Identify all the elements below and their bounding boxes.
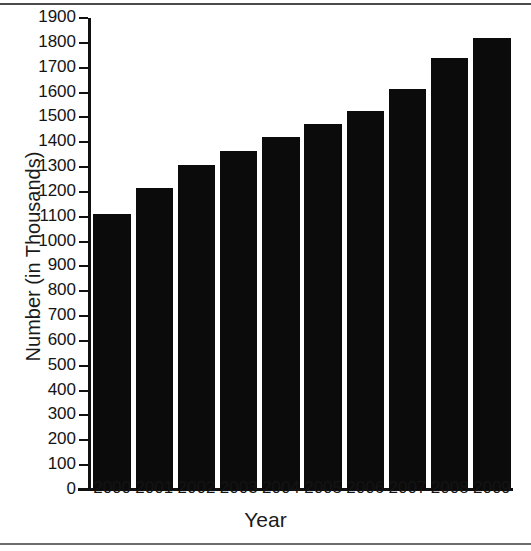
bar <box>389 89 426 490</box>
bar-slot <box>471 18 513 490</box>
y-tick-mark: 1500 <box>79 116 88 118</box>
y-tick-label: 600 <box>48 330 76 350</box>
x-tick-label: 2005 <box>302 478 344 498</box>
x-tick-label: 2008 <box>429 478 471 498</box>
bar <box>93 214 130 490</box>
y-tick-label: 700 <box>48 305 76 325</box>
y-tick-mark: 300 <box>79 414 88 416</box>
bar <box>473 38 510 490</box>
y-tick-label: 100 <box>48 454 76 474</box>
y-tick-label: 1600 <box>38 82 76 102</box>
y-tick-label: 1400 <box>38 131 76 151</box>
y-tick-label: 1000 <box>38 231 76 251</box>
y-tick-mark: 200 <box>79 439 88 441</box>
bar-slot <box>386 18 428 490</box>
y-tick-mark: 1400 <box>79 141 88 143</box>
y-tick-label: 1800 <box>38 32 76 52</box>
bar-slot <box>218 18 260 490</box>
y-tick-mark: 900 <box>79 265 88 267</box>
y-tick-label: 200 <box>48 429 76 449</box>
x-tick-label: 2000 <box>91 478 133 498</box>
y-tick-label: 900 <box>48 255 76 275</box>
y-tick-label: 1900 <box>38 7 76 27</box>
bar-slot <box>302 18 344 490</box>
y-tick-label: 500 <box>48 355 76 375</box>
bar <box>262 137 299 490</box>
plot-area: 0100200300400500600700800900100011001200… <box>88 18 513 490</box>
y-tick-mark: 700 <box>79 315 88 317</box>
x-tick-label: 2009 <box>471 478 513 498</box>
bar <box>220 151 257 490</box>
x-tick-label: 2001 <box>133 478 175 498</box>
y-tick-label: 400 <box>48 380 76 400</box>
bar-chart-figure: Number (in Thousands) 010020030040050060… <box>0 0 531 551</box>
y-tick-mark: 1700 <box>79 67 88 69</box>
y-tick-label: 1500 <box>38 106 76 126</box>
bar <box>178 165 215 490</box>
x-tick-label: 2006 <box>344 478 386 498</box>
bar-slot <box>175 18 217 490</box>
y-tick-mark: 500 <box>79 365 88 367</box>
bar <box>431 58 468 490</box>
x-tick-label: 2002 <box>175 478 217 498</box>
x-tick-label: 2004 <box>260 478 302 498</box>
y-tick-mark: 1900 <box>79 17 88 19</box>
bar-slot <box>429 18 471 490</box>
y-tick-mark: 1600 <box>79 92 88 94</box>
y-tick-label: 1100 <box>39 206 76 226</box>
y-tick-mark: 800 <box>79 290 88 292</box>
y-axis-title: Number (in Thousands) <box>22 107 45 407</box>
bar <box>136 188 173 490</box>
y-tick-label: 1200 <box>38 181 76 201</box>
y-tick-label: 0 <box>67 479 76 499</box>
y-tick-mark: 100 <box>79 464 88 466</box>
scan-artifact-line-top <box>0 3 531 5</box>
bar-slot <box>133 18 175 490</box>
y-tick-label: 800 <box>48 280 76 300</box>
x-axis-title: Year <box>0 508 531 532</box>
y-tick-label: 1700 <box>38 57 76 77</box>
bar-slot <box>344 18 386 490</box>
bar-slot <box>260 18 302 490</box>
y-tick-mark: 1800 <box>79 42 88 44</box>
y-tick-mark: 400 <box>79 390 88 392</box>
y-tick-mark: 600 <box>79 340 88 342</box>
y-tick-label: 1300 <box>38 156 76 176</box>
y-tick-mark: 1300 <box>79 166 88 168</box>
y-tick-mark: 0 <box>79 489 88 491</box>
bar <box>304 124 341 490</box>
bar <box>347 111 384 490</box>
y-tick-label: 300 <box>48 404 76 424</box>
y-tick-mark: 1200 <box>79 191 88 193</box>
x-tick-label: 2003 <box>218 478 260 498</box>
x-tick-label: 2007 <box>386 478 428 498</box>
bar-series <box>91 18 513 490</box>
y-tick-mark: 1000 <box>79 241 88 243</box>
scan-artifact-line-bottom <box>0 543 531 545</box>
bar-slot <box>91 18 133 490</box>
y-tick-mark: 1100 <box>79 216 88 218</box>
